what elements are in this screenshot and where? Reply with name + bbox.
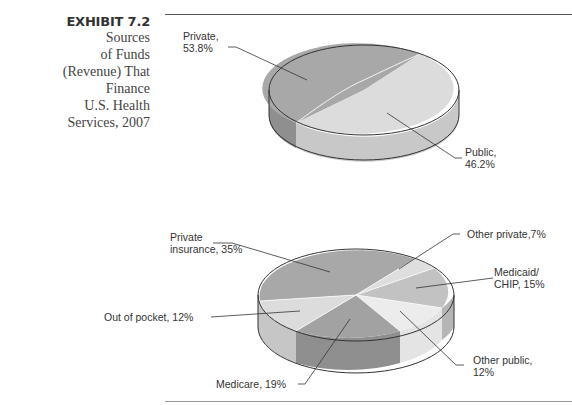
- label-public-value: 46.2%: [465, 158, 495, 170]
- label-out-of-pocket: Out of pocket, 12%: [104, 311, 193, 323]
- label-medicaid: Medicaid/: [494, 266, 539, 278]
- label-medicare: Medicare, 19%: [216, 378, 286, 390]
- label-private: Private,: [183, 30, 219, 42]
- bottom-pie: Private insurance, 35% Other private,7% …: [104, 228, 546, 390]
- label-medicaid-value: CHIP, 15%: [494, 278, 545, 290]
- charts: Private, 53.8% Public, 46.2%: [0, 0, 572, 405]
- label-other-public-value: 12%: [473, 366, 494, 378]
- label-private-insurance: Private: [170, 231, 203, 243]
- label-other-private: Other private,7%: [467, 228, 546, 240]
- label-other-public: Other public,: [473, 354, 533, 366]
- label-private-value: 53.8%: [183, 42, 213, 54]
- label-public: Public,: [465, 146, 497, 158]
- top-pie: Private, 53.8% Public, 46.2%: [183, 30, 497, 170]
- label-private-insurance-value: insurance, 35%: [170, 243, 242, 255]
